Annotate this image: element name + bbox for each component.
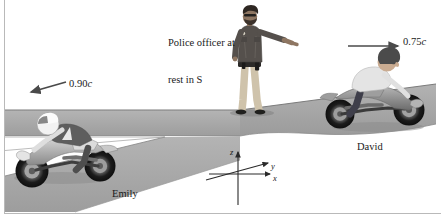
emily-name-label: Emily bbox=[112, 188, 138, 200]
police-officer bbox=[230, 5, 297, 117]
velocity-left-symbol: c bbox=[87, 78, 92, 89]
velocity-right-value: 0.75 bbox=[403, 36, 421, 47]
officer-caption-line2: rest in S bbox=[168, 74, 235, 86]
officer-head bbox=[243, 5, 258, 25]
velocity-right-symbol: c bbox=[421, 36, 426, 47]
axis-y-label: y bbox=[271, 161, 275, 171]
axis-z-label: z bbox=[230, 147, 233, 157]
velocity-left-value: 0.90 bbox=[69, 78, 87, 89]
axis-x-label: x bbox=[273, 173, 277, 183]
officer-caption-line1: Police officer at bbox=[168, 37, 235, 49]
velocity-right-label: 0.75c bbox=[403, 36, 426, 48]
velocity-left-label: 0.90c bbox=[69, 78, 92, 90]
relativity-figure: Police officer at rest in S 0.90c 0.75c … bbox=[0, 0, 443, 218]
david-head bbox=[378, 47, 401, 72]
david-name-label: David bbox=[357, 141, 383, 153]
emily-helmet bbox=[37, 113, 59, 135]
velocity-arrow-left bbox=[31, 82, 66, 92]
officer-caption: Police officer at rest in S bbox=[168, 12, 235, 111]
